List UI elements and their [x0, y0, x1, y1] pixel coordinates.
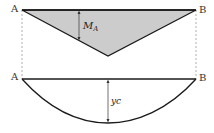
bottom-label-b: B: [199, 73, 206, 83]
deflection-curve: [22, 79, 196, 123]
ma-label: MA: [83, 21, 98, 33]
yc-arrow-up-icon: [107, 80, 110, 84]
bottom-label-a: A: [11, 72, 18, 82]
ma-label-main: M: [83, 20, 93, 31]
yc-arrow-down-icon: [107, 119, 110, 123]
moment-diagram-triangle: [22, 10, 196, 56]
ma-label-subscript: A: [93, 25, 98, 33]
yc-label: yc: [111, 97, 121, 106]
beam-diagrams: [0, 0, 214, 133]
top-label-a: A: [11, 4, 18, 14]
top-label-b: B: [199, 5, 206, 15]
